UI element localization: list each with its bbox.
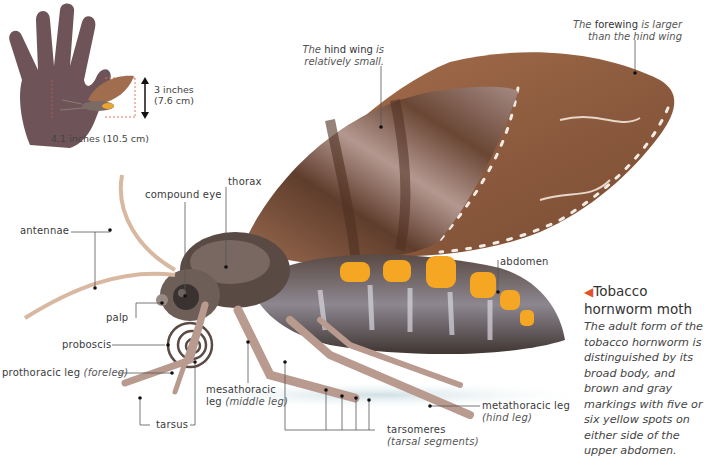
label-tarsomeres: tarsomeres (tarsal segments) — [387, 424, 479, 448]
label-thorax: thorax — [228, 176, 262, 188]
caption: ◀Tobacco hornworm moth The adult form of… — [584, 283, 704, 459]
height-arrow-icon — [141, 77, 149, 119]
hand-scale-inset — [9, 3, 149, 148]
caption-body: The adult form of the tobacco hornworm i… — [584, 319, 704, 459]
label-proboscis: proboscis — [62, 339, 111, 351]
label-antennae: antennae — [20, 225, 69, 237]
caption-title: ◀Tobacco hornworm moth — [584, 283, 704, 318]
label-compound-eye: compound eye — [145, 189, 222, 201]
width-measure-label: 4.1 inches (10.5 cm) — [51, 133, 149, 144]
label-metathoracic-leg: metathoracic leg (hind leg) — [482, 400, 570, 424]
hind-wing-note: The hind wing is relatively small. — [290, 44, 384, 68]
forewing-note: The forewing is larger than the hind win… — [560, 19, 682, 43]
antenna-lower — [25, 274, 175, 318]
label-abdomen: abdomen — [500, 256, 549, 268]
triangle-left-icon: ◀ — [584, 285, 593, 299]
label-mesathoracic-leg: mesathoracic leg (middle leg) — [206, 384, 288, 408]
label-palp: palp — [106, 312, 128, 324]
label-tarsus: tarsus — [156, 419, 188, 431]
height-measure-label: 3 inches (7.6 cm) — [154, 84, 194, 106]
label-prothoracic-leg: prothoracic leg (foreleg) — [2, 367, 128, 379]
